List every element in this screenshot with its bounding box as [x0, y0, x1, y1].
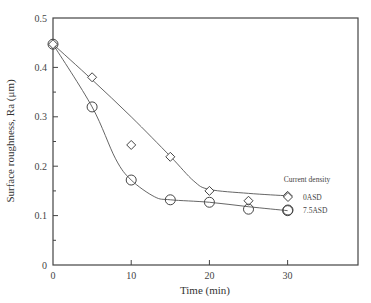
- y-tick-label: 0.2: [35, 161, 48, 172]
- plot-frame: [53, 18, 358, 265]
- y-tick-label: 0: [42, 260, 47, 271]
- data-markers: [48, 39, 293, 215]
- legend-label-0ASD: 0ASD: [303, 193, 322, 202]
- x-axis: 0102030: [51, 260, 293, 281]
- x-tick-label: 30: [283, 270, 293, 281]
- y-tick-label: 0.3: [35, 111, 48, 122]
- y-axis: 00.10.20.30.40.5: [35, 13, 59, 271]
- y-tick-label: 0.5: [35, 13, 48, 24]
- fit-curve-0ASD: [53, 44, 288, 196]
- legend: Current density0ASD7.5ASD: [283, 175, 330, 215]
- x-tick-label: 20: [204, 270, 214, 281]
- fit-curves: [53, 44, 288, 210]
- plot-border: [53, 18, 358, 265]
- marker-0ASD: [205, 186, 214, 195]
- marker-0ASD: [127, 140, 136, 149]
- y-tick-label: 0.1: [35, 210, 48, 221]
- legend-label-7.5ASD: 7.5ASD: [303, 206, 328, 215]
- y-tick-label: 0.4: [35, 62, 48, 73]
- y-axis-label: Surface roughness, Ra (μm): [4, 79, 17, 203]
- x-tick-label: 10: [126, 270, 136, 281]
- legend-title: Current density: [284, 175, 331, 184]
- fit-curve-7.5ASD: [53, 44, 288, 210]
- x-axis-label: Time (min): [180, 284, 230, 297]
- chart: 00.10.20.30.40.5 0102030 Current density…: [0, 0, 371, 303]
- x-tick-label: 0: [51, 270, 56, 281]
- marker-0ASD: [88, 73, 97, 82]
